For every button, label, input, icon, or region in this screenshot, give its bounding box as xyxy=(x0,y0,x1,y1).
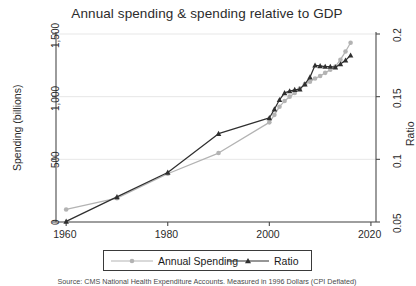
data-point-marker-circle xyxy=(323,71,328,76)
chart-legend: Annual Spending Ratio xyxy=(103,250,312,271)
y-tick-label-right-0p1: 0.1 xyxy=(392,154,403,168)
y-tick-label-left-500: 500 xyxy=(50,151,61,168)
data-point-marker-circle xyxy=(318,74,323,79)
x-tick-label-2000: 2000 xyxy=(256,228,279,240)
y-tick-label-right-0p05: 0.05 xyxy=(392,214,403,233)
legend-swatch-triangle-icon xyxy=(226,254,270,268)
y-tick-label-left-1000: 1,000 xyxy=(50,86,61,111)
legend-item-annual-spending[interactable]: Annual Spending xyxy=(110,251,240,270)
data-point-marker-circle xyxy=(277,104,282,109)
data-point-marker-triangle xyxy=(307,74,313,79)
x-tick-label-1960: 1960 xyxy=(53,228,76,240)
legend-swatch-circle-icon xyxy=(110,254,154,268)
y-tick-label-left-0: 0 xyxy=(50,219,61,225)
legend-item-ratio[interactable]: Ratio xyxy=(226,251,301,270)
data-point-marker-circle xyxy=(64,207,69,212)
y-axis-label-left: Spending (billions) xyxy=(11,85,23,171)
y-axis-label-right: Ratio xyxy=(404,121,416,146)
series-line-ratio xyxy=(66,55,350,221)
data-point-marker-triangle xyxy=(272,106,278,111)
series-line-annual-spending xyxy=(66,43,350,210)
data-point-marker-circle xyxy=(267,120,272,125)
y-tick-label-right-0p2: 0.2 xyxy=(392,28,403,42)
y-tick-label-right-0p15: 0.15 xyxy=(392,88,403,107)
x-tick-label-2020: 2020 xyxy=(358,228,381,240)
y-tick-label-left-1500: 1,500 xyxy=(50,23,61,48)
x-tick-label-1980: 1980 xyxy=(155,228,178,240)
data-point-marker-circle xyxy=(313,76,318,81)
source-note: Source: CMS National Health Expenditure … xyxy=(0,277,414,286)
data-point-marker-circle xyxy=(216,151,221,156)
data-point-marker-circle xyxy=(348,40,353,45)
data-point-marker-circle xyxy=(272,113,277,118)
data-point-marker-circle xyxy=(287,94,292,99)
data-point-marker-triangle xyxy=(348,52,354,57)
data-point-marker-circle xyxy=(282,99,287,104)
data-point-marker-circle xyxy=(343,49,348,54)
legend-label-ratio: Ratio xyxy=(270,255,301,267)
